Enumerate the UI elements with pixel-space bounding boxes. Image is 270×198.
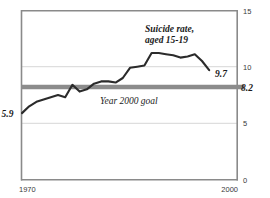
end-value-label: 9.7 bbox=[215, 69, 228, 79]
x-tick-2000: 2000 bbox=[221, 185, 238, 194]
y-tick-10: 10 bbox=[243, 63, 251, 72]
y-tick-15: 15 bbox=[243, 7, 251, 16]
suicide-rate-line-chart: 15 10 8.2 5 0 1970 2000 5.9 9.7 Suicide … bbox=[0, 0, 270, 198]
y-tick-0: 0 bbox=[243, 176, 247, 185]
goal-line-annotation: Year 2000 goal bbox=[100, 96, 158, 106]
series-annotation-line2: aged 15-19 bbox=[145, 35, 188, 45]
chart-container: 15 10 8.2 5 0 1970 2000 5.9 9.7 Suicide … bbox=[0, 0, 270, 198]
y-tick-5: 5 bbox=[243, 119, 247, 128]
x-tick-1970: 1970 bbox=[19, 185, 36, 194]
y-tick-goal-8-2: 8.2 bbox=[241, 83, 253, 93]
start-value-label: 5.9 bbox=[2, 109, 14, 119]
series-annotation-line1: Suicide rate, bbox=[145, 24, 194, 34]
